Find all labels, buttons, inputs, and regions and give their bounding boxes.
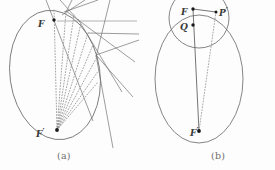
- label-point-q-b: Q: [180, 19, 188, 32]
- tangent-line: [96, 40, 139, 55]
- tangent-line: [46, 0, 93, 121]
- label-focus-upper-b-base: F: [181, 7, 187, 17]
- panel-a-group: [1, 0, 139, 148]
- panel-b-dotted-segments: [199, 12, 216, 131]
- label-point-p-b-prime: ′: [226, 4, 228, 14]
- dotted-ray: [57, 15, 74, 130]
- point-q-b: [191, 23, 194, 26]
- caption-panel-a: (a): [57, 150, 71, 161]
- panel-a-tangent-lines: [46, 0, 139, 148]
- ellipse-a: [1, 4, 108, 145]
- label-focus-lower-b: F′: [190, 125, 199, 138]
- label-focus-upper-b: F: [181, 4, 187, 17]
- label-focus-lower-b-prime: ′: [196, 124, 198, 134]
- label-focus-lower-a-prime: ′: [42, 125, 44, 135]
- point-p-b: [215, 11, 218, 14]
- dotted-ray: [57, 23, 81, 130]
- figure-container: F F′ F Q P′ F′ (a) (b): [0, 0, 275, 170]
- panel-b-solid-segments: [193, 9, 216, 131]
- tangent-line: [88, 33, 139, 34]
- focus-point-upper-a: [52, 18, 55, 21]
- segment-q-to-p: [193, 9, 216, 12]
- segment-f-to-fp: [193, 9, 199, 131]
- label-focus-upper-a-base: F: [38, 19, 44, 29]
- focus-point-upper-b: [191, 7, 194, 10]
- panel-a-dotted-rays: [54, 9, 99, 130]
- tangent-line: [96, 0, 110, 57]
- tangent-line: [66, 11, 135, 62]
- label-focus-upper-a: F: [38, 16, 44, 29]
- panel-b-group: [155, 0, 243, 143]
- label-point-q-b-base: Q: [180, 22, 188, 32]
- dotted-ray: [57, 11, 66, 130]
- label-focus-lower-a: F′: [36, 126, 45, 139]
- caption-panel-b: (b): [211, 150, 225, 161]
- focus-point-lower-a: [55, 128, 59, 132]
- label-point-p-b: P′: [219, 5, 228, 18]
- segment-p-to-fp: [199, 12, 216, 131]
- tangent-line: [96, 55, 133, 97]
- label-point-p-b-base: P: [219, 8, 226, 18]
- tangent-line: [62, 0, 85, 15]
